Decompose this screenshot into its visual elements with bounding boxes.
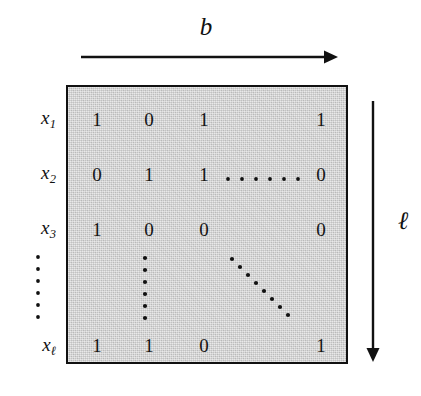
- width-label-b: b: [186, 12, 226, 42]
- length-label-ell: ℓ: [388, 206, 418, 236]
- matrix-cell-r2c-last: 0: [308, 164, 334, 186]
- matrix-cell-r2c3: 1: [191, 164, 217, 186]
- matrix-cell-r1c1: 1: [84, 109, 110, 131]
- width-arrow-icon: [80, 50, 338, 64]
- matrix-vertical-ellipsis-icon: [138, 255, 152, 325]
- matrix-cell-r4c1: 1: [84, 335, 110, 357]
- row-label-xl: xℓ: [10, 335, 56, 361]
- row-label-vertical-ellipsis-icon: [22, 254, 54, 324]
- matrix-cell-r2c1: 0: [84, 164, 110, 186]
- matrix-cell-r2c2: 1: [136, 164, 162, 186]
- row-label-subscript: 3: [50, 227, 56, 241]
- matrix-cell-r1c2: 0: [136, 109, 162, 131]
- matrix-cell-r1c3: 1: [191, 109, 217, 131]
- matrix-cell-r1c-last: 1: [308, 109, 334, 131]
- length-arrow-icon: [365, 100, 381, 362]
- matrix-cell-r3c2: 0: [136, 219, 162, 241]
- row-label-subscript: 2: [50, 172, 56, 186]
- matrix-cell-r4c3: 0: [191, 335, 217, 357]
- matrix-cell-r4c2: 1: [136, 335, 162, 357]
- row-label-base: x: [42, 334, 51, 355]
- matrix-horizontal-ellipsis-icon: [224, 173, 306, 185]
- matrix-cell-r3c1: 1: [84, 219, 110, 241]
- matrix-figure: b ℓ x1 x2 x3 xℓ 1 0 1 1 0: [0, 0, 421, 396]
- matrix-cell-r4c-last: 1: [308, 335, 334, 357]
- matrix-box: 1 0 1 1 0 1 1 0 1 0 0 0: [66, 85, 348, 364]
- row-label-x2: x2: [10, 163, 56, 189]
- matrix-cell-r3c3: 0: [191, 219, 217, 241]
- matrix-diagonal-ellipsis-icon: [228, 255, 298, 325]
- matrix-cell-r3c-last: 0: [308, 219, 334, 241]
- row-label-base: x: [41, 217, 50, 238]
- row-label-subscript: 1: [50, 117, 56, 131]
- row-label-x3: x3: [10, 218, 56, 244]
- row-label-base: x: [41, 107, 50, 128]
- row-label-base: x: [41, 162, 50, 183]
- row-label-subscript: ℓ: [51, 344, 56, 358]
- row-label-x1: x1: [10, 108, 56, 134]
